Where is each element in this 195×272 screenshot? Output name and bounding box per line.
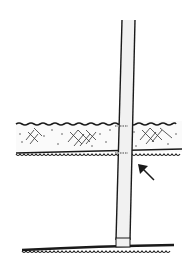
band-scallop-edge <box>16 154 180 156</box>
lace-band <box>16 121 182 156</box>
arrow-icon <box>138 164 154 180</box>
strap-end <box>116 238 130 247</box>
scalloped-bottom-trim <box>22 238 174 253</box>
illustration <box>0 0 195 272</box>
diagram-svg <box>0 0 195 272</box>
